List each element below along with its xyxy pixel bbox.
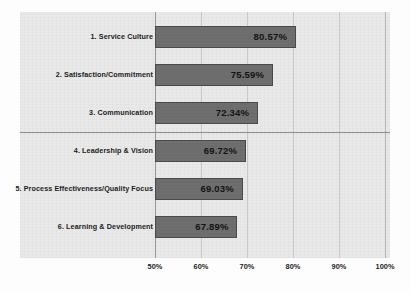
plot-area: 1. Service Culture80.57%2. Satisfaction/… xyxy=(20,12,390,258)
bar-row: 6. Learning & Development67.89% xyxy=(20,216,390,238)
bar-value-label: 75.59% xyxy=(231,64,264,86)
x-axis-ticks: 50%60%70%80%90%100% xyxy=(20,262,390,276)
bar-value-label: 69.03% xyxy=(201,178,234,200)
bar-value-label: 67.89% xyxy=(195,216,228,238)
x-tick-90: 90% xyxy=(332,262,347,271)
x-tick-80: 80% xyxy=(286,262,301,271)
group-divider xyxy=(20,132,390,133)
bar-row: 3. Communication72.34% xyxy=(20,102,390,124)
bar-category-label: 6. Learning & Development xyxy=(58,216,153,238)
bar-category-label: 3. Communication xyxy=(89,102,153,124)
bar-row: 5. Process Effectiveness/Quality Focus69… xyxy=(20,178,390,200)
bar-category-label: 2. Satisfaction/Commitment xyxy=(56,64,153,86)
x-tick-60: 60% xyxy=(194,262,209,271)
x-tick-50: 50% xyxy=(148,262,163,271)
x-tick-70: 70% xyxy=(240,262,255,271)
bar-row: 1. Service Culture80.57% xyxy=(20,26,390,48)
bar-category-label: 5. Process Effectiveness/Quality Focus xyxy=(15,178,153,200)
bar-value-label: 72.34% xyxy=(216,102,249,124)
bar-category-label: 1. Service Culture xyxy=(90,26,153,48)
bar-category-label: 4. Leadership & Vision xyxy=(74,140,153,162)
bar-value-label: 69.72% xyxy=(204,140,237,162)
chart-page: 1. Service Culture80.57%2. Satisfaction/… xyxy=(0,0,411,291)
bar-row: 4. Leadership & Vision69.72% xyxy=(20,140,390,162)
bar-value-label: 80.57% xyxy=(254,26,287,48)
x-tick-100: 100% xyxy=(376,262,395,271)
chart-plot-frame: 1. Service Culture80.57%2. Satisfaction/… xyxy=(20,12,390,258)
bar-row: 2. Satisfaction/Commitment75.59% xyxy=(20,64,390,86)
